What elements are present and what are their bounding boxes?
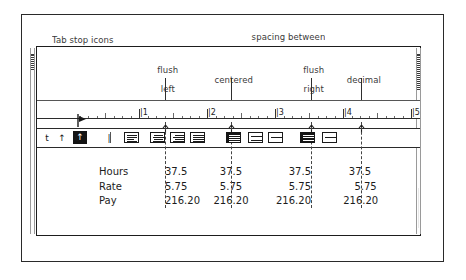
tab-leader-line-flush-left <box>165 122 166 208</box>
ruler-minor-tick <box>403 116 404 119</box>
toolbar-button-line-spacing-single[interactable] <box>226 132 241 143</box>
toolbar-button-tab-left[interactable]: t <box>41 132 53 145</box>
table-cell: 37.5 <box>231 165 311 180</box>
ruler-minor-tick <box>88 116 89 119</box>
label-flush-left-line1: flush <box>157 65 178 75</box>
ruler-minor-tick <box>224 116 225 119</box>
ruler-minor-tick <box>250 116 251 119</box>
ruler-minor-tick <box>360 116 361 119</box>
ruler-minor-tick <box>199 116 200 119</box>
label-flush-right-line1: flush <box>303 65 324 75</box>
table-row-label: Pay <box>99 194 117 209</box>
toolbar-button-paragraph-spacing-open[interactable] <box>322 132 337 143</box>
ruler-minor-tick <box>292 116 293 119</box>
toolbar-button-tab-bar[interactable]: | <box>103 132 115 145</box>
toolbar-button-paragraph-spacing-closed[interactable] <box>300 132 315 143</box>
ruler-minor-tick <box>148 116 149 119</box>
ruler-number-label: |5 <box>412 109 420 117</box>
ruler-minor-tick <box>241 113 242 118</box>
ruler[interactable]: |1|2|3|4|5 <box>37 100 420 119</box>
ruler-minor-tick <box>335 116 336 119</box>
toolbar-button-tab-center[interactable]: ↑ <box>56 132 68 145</box>
table-cell: 5.75 <box>354 180 376 195</box>
ruler-minor-tick <box>233 116 234 119</box>
ruler-minor-tick <box>105 113 106 118</box>
ruler-minor-tick <box>394 116 395 119</box>
toolbar-button-align-justify[interactable] <box>190 132 205 143</box>
table-row-label: Rate <box>99 180 122 195</box>
ruler-minor-tick <box>386 116 387 119</box>
tab-right-icon: ƨ <box>75 134 80 143</box>
ruler-minor-tick <box>165 116 166 119</box>
sample-text-table: Hours37.537.537.537.5Rate5.755.755.755.7… <box>37 165 420 217</box>
ruler-minor-tick <box>156 116 157 119</box>
ruler-minor-tick <box>190 116 191 119</box>
toolbar-button-align-right[interactable] <box>170 132 185 143</box>
ruler-minor-tick <box>131 116 132 119</box>
callout-spacing-line1: spacing between <box>252 32 326 42</box>
toolbar-button-align-center[interactable] <box>150 132 165 143</box>
table-cell: 5.75 <box>231 180 311 195</box>
tab-left-icon: t <box>45 134 49 143</box>
ruler-minor-tick <box>182 116 183 119</box>
ruler-minor-tick <box>97 116 98 119</box>
label-flush-left-line2: left <box>161 84 175 94</box>
ruler-minor-tick <box>309 113 310 118</box>
ruler-minor-tick <box>318 116 319 119</box>
toolbar-separator <box>110 132 111 143</box>
toolbar-button-tab-right[interactable]: ƨ <box>71 132 83 145</box>
indent-marker-icon <box>77 114 87 127</box>
table-cell: 37.5 <box>165 165 187 180</box>
ruler-minor-tick <box>258 116 259 119</box>
ruler-minor-tick <box>114 116 115 119</box>
toolbar-button-paragraph-sample[interactable] <box>124 132 139 143</box>
ruler-minor-tick <box>267 116 268 119</box>
table-cell: 5.75 <box>165 180 187 195</box>
ruler-minor-tick <box>369 116 370 119</box>
ruler-minor-tick <box>284 116 285 119</box>
label-flush-right-line2: right <box>304 84 324 94</box>
table-row-label: Hours <box>99 165 128 180</box>
label-decimal-text: decimal <box>347 75 381 85</box>
ruler-minor-tick <box>216 116 217 119</box>
table-cell: 37.5 <box>349 165 371 180</box>
ruler-minor-tick <box>352 116 353 119</box>
table-cell: 216.20 <box>231 194 311 209</box>
toolbar-button-line-spacing-double[interactable] <box>268 132 283 143</box>
tab-center-icon: ↑ <box>58 134 66 143</box>
ruler-ticks: |1|2|3|4|5 <box>37 101 420 118</box>
ruler-minor-tick <box>301 116 302 119</box>
ruler-minor-tick <box>122 116 123 119</box>
callout-spacing-between-paragraph-icons: spacing between paragraph icons <box>246 23 325 46</box>
ruler-minor-tick <box>377 113 378 118</box>
toolbar-button-line-spacing-one-half[interactable] <box>248 132 263 143</box>
first-line-indent-marker[interactable] <box>77 112 87 125</box>
vertical-scrollbar-left[interactable] <box>30 48 35 234</box>
label-centered-text: centered <box>215 75 254 85</box>
scrollbar-thumb[interactable] <box>31 54 34 70</box>
scrollbar-thumb[interactable] <box>417 54 420 90</box>
tab-leader-line-decimal <box>361 122 362 208</box>
ruler-minor-tick <box>326 116 327 119</box>
ruler-minor-tick <box>173 113 174 118</box>
